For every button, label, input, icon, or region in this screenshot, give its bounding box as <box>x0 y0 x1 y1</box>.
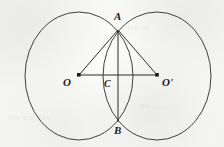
geometry-canvas <box>0 0 224 147</box>
point-marker-o <box>77 73 81 77</box>
point-marker-o-prime <box>155 73 159 77</box>
segment-radius-oa <box>79 30 118 75</box>
segment-radius-o-prime-a <box>118 30 157 75</box>
geometry-figure: are in no ..... .... the circles A B C O… <box>0 0 224 147</box>
label-center-o-prime: O' <box>162 77 173 88</box>
label-point-b: B <box>114 125 121 136</box>
label-center-o: O <box>63 77 71 88</box>
label-point-c: C <box>104 79 111 89</box>
label-point-a: A <box>114 11 121 22</box>
